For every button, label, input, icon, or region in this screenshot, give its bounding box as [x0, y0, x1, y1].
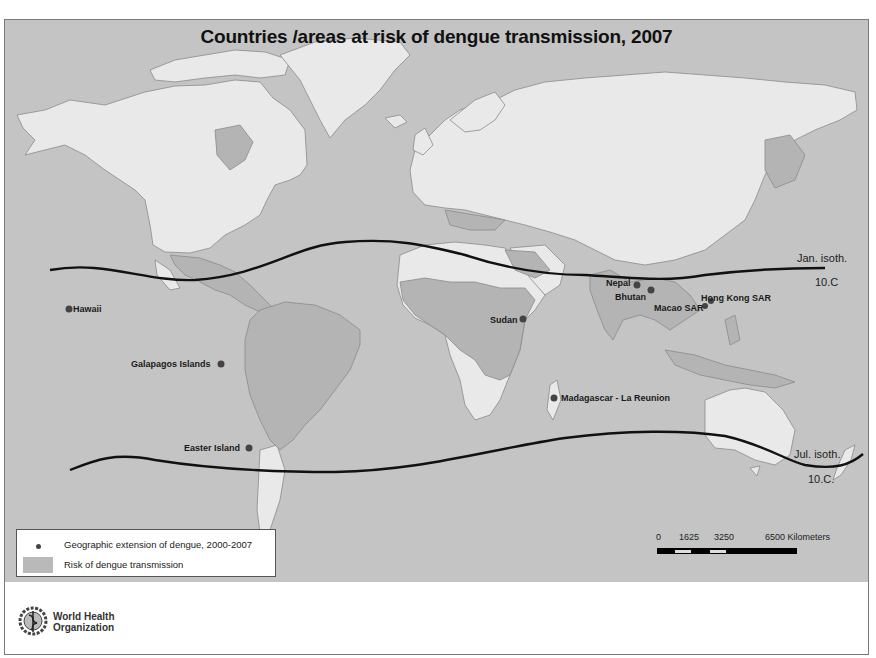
australia — [705, 388, 795, 465]
map-frame: Countries /areas at risk of dengue trans… — [4, 19, 869, 655]
map-title: Countries /areas at risk of dengue trans… — [5, 26, 868, 48]
scale-tick-3250: 3250 — [714, 532, 734, 542]
legend-dot-icon — [36, 544, 41, 549]
label-sudan: Sudan — [490, 315, 518, 325]
map-area: Countries /areas at risk of dengue trans… — [5, 20, 868, 582]
label-hawaii: Hawaii — [73, 304, 102, 314]
point-easter-island — [246, 445, 253, 452]
label-bhutan: Bhutan — [615, 292, 646, 302]
north-america — [17, 80, 307, 253]
point-hawaii — [66, 306, 73, 313]
who-name-line1: World Health — [53, 611, 114, 622]
scale-bar-graphic — [657, 548, 797, 554]
label-jul-isotherm: Jul. isoth. — [794, 448, 840, 460]
risk-maritime-southeast-asia — [665, 350, 795, 388]
risk-mexico-central-america — [170, 255, 275, 312]
point-nepal — [634, 282, 641, 289]
risk-south-america — [245, 302, 360, 450]
scale-tick-1625: 1625 — [679, 532, 699, 542]
scale-tick-6500: 6500 Kilometers — [765, 532, 830, 542]
who-emblem-icon — [17, 605, 49, 637]
scale-tick-0: 0 — [656, 532, 661, 542]
label-galapagos: Galapagos Islands — [131, 359, 211, 369]
label-hong-kong: Hong Kong SAR — [701, 293, 771, 303]
label-jan-isotherm-value: 10.C — [815, 276, 838, 288]
label-jan-isotherm: Jan. isoth. — [797, 252, 847, 264]
label-jul-isotherm-value: 10.C. — [808, 473, 834, 485]
who-logo: World Health Organization — [17, 605, 49, 645]
who-name-line2: Organization — [53, 622, 114, 633]
point-madagascar — [551, 395, 558, 402]
map-legend: Geographic extension of dengue, 2000-200… — [16, 529, 276, 577]
label-macao: Macao SAR — [654, 303, 704, 313]
scale-bar: 0 1625 3250 6500 Kilometers — [653, 532, 803, 562]
point-galapagos — [218, 361, 225, 368]
legend-swatch-icon — [23, 557, 53, 573]
point-bhutan — [648, 287, 655, 294]
label-easter-island: Easter Island — [184, 443, 240, 453]
point-sudan — [520, 316, 527, 323]
label-madagascar: Madagascar - La Reunion — [561, 393, 670, 403]
legend-item-extension: Geographic extension of dengue, 2000-200… — [64, 539, 252, 550]
legend-item-risk: Risk of dengue transmission — [64, 559, 183, 570]
label-nepal: Nepal — [606, 278, 631, 288]
